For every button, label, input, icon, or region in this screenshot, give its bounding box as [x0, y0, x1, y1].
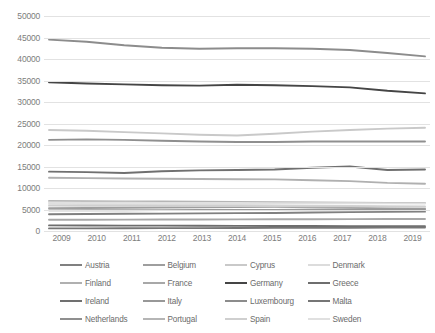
series-line	[49, 178, 425, 184]
legend-swatch-icon	[60, 264, 82, 266]
legend-label: Denmark	[333, 261, 365, 270]
legend-row: NetherlandsPortugalSpainSweden	[60, 310, 390, 328]
line-chart: 0500010000150002000025000300003500040000…	[0, 0, 435, 333]
x-axis-tick-label: 2015	[255, 233, 290, 249]
legend-swatch-icon	[308, 318, 330, 320]
legend-label: Finland	[85, 279, 111, 288]
legend-swatch-icon	[143, 318, 165, 320]
legend-label: Belgium	[168, 261, 197, 270]
y-axis-tick-label: 50000	[17, 11, 40, 21]
series-line	[49, 82, 425, 93]
legend-swatch-icon	[143, 300, 165, 302]
series-line	[49, 212, 425, 215]
series-line	[49, 203, 425, 204]
legend-swatch-icon	[143, 264, 165, 266]
y-axis-tick-label: 30000	[17, 97, 40, 107]
x-axis-tick-label: 2018	[360, 233, 395, 249]
x-axis-tick-label: 2011	[114, 233, 149, 249]
series-line	[49, 139, 425, 142]
x-axis-tick-label: 2009	[44, 233, 79, 249]
legend-item-spain[interactable]: Spain	[225, 315, 308, 324]
legend-item-france[interactable]: France	[143, 279, 226, 288]
x-axis-tick-label: 2016	[290, 233, 325, 249]
series-line	[49, 206, 425, 207]
legend-item-belgium[interactable]: Belgium	[143, 261, 226, 270]
gridline	[44, 145, 430, 146]
gridline	[44, 124, 430, 125]
legend-item-malta[interactable]: Malta	[308, 297, 391, 306]
gridline	[44, 81, 430, 82]
gridline	[44, 188, 430, 189]
legend-item-ireland[interactable]: Ireland	[60, 297, 143, 306]
y-axis-tick-label: 10000	[17, 183, 40, 193]
legend-swatch-icon	[143, 282, 165, 284]
legend-label: Greece	[333, 279, 359, 288]
legend-item-denmark[interactable]: Denmark	[308, 261, 391, 270]
x-axis-labels: 2009201020112012201320142015201620172018…	[44, 233, 430, 249]
y-axis-labels: 0500010000150002000025000300003500040000…	[0, 16, 40, 231]
gridline	[44, 167, 430, 168]
legend-label: Austria	[85, 261, 109, 270]
gridline	[44, 59, 430, 60]
x-axis-tick-label: 2010	[79, 233, 114, 249]
gridline	[44, 102, 430, 103]
legend-swatch-icon	[60, 300, 82, 302]
y-axis-tick-label: 40000	[17, 54, 40, 64]
chart-legend: AustriaBelgiumCyprusDenmarkFinlandFrance…	[60, 256, 390, 328]
series-line	[49, 40, 425, 57]
x-axis-tick-label: 2017	[325, 233, 360, 249]
legend-item-finland[interactable]: Finland	[60, 279, 143, 288]
x-axis-tick-label: 2019	[395, 233, 430, 249]
legend-swatch-icon	[225, 300, 247, 302]
y-axis-tick-label: 15000	[17, 162, 40, 172]
y-axis-tick-label: 45000	[17, 33, 40, 43]
legend-row: AustriaBelgiumCyprusDenmark	[60, 256, 390, 274]
legend-item-netherlands[interactable]: Netherlands	[60, 315, 143, 324]
series-line	[49, 228, 425, 229]
legend-swatch-icon	[225, 264, 247, 266]
legend-label: Malta	[333, 297, 352, 306]
series-line	[49, 219, 425, 220]
series-line	[49, 225, 425, 226]
gridline	[44, 231, 430, 232]
series-line	[49, 128, 425, 136]
legend-item-portugal[interactable]: Portugal	[143, 315, 226, 324]
legend-swatch-icon	[225, 318, 247, 320]
legend-item-cyprus[interactable]: Cyprus	[225, 261, 308, 270]
legend-swatch-icon	[60, 282, 82, 284]
y-axis-tick-label: 5000	[22, 205, 40, 215]
legend-item-luxembourg[interactable]: Luxembourg	[225, 297, 308, 306]
y-axis-tick-label: 20000	[17, 140, 40, 150]
gridline	[44, 38, 430, 39]
legend-item-italy[interactable]: Italy	[143, 297, 226, 306]
x-axis-tick-label: 2014	[219, 233, 254, 249]
legend-row: IrelandItalyLuxembourgMalta	[60, 292, 390, 310]
legend-label: Sweden	[333, 315, 362, 324]
x-axis-tick-label: 2013	[184, 233, 219, 249]
legend-label: Italy	[168, 297, 182, 306]
legend-item-germany[interactable]: Germany	[225, 279, 308, 288]
legend-item-austria[interactable]: Austria	[60, 261, 143, 270]
legend-swatch-icon	[308, 264, 330, 266]
legend-label: Ireland	[85, 297, 109, 306]
legend-label: France	[168, 279, 193, 288]
legend-label: Cyprus	[250, 261, 275, 270]
legend-label: Portugal	[168, 315, 197, 324]
legend-swatch-icon	[60, 318, 82, 320]
y-axis-tick-label: 25000	[17, 119, 40, 129]
x-axis-tick-label: 2012	[149, 233, 184, 249]
gridline	[44, 210, 430, 211]
legend-item-sweden[interactable]: Sweden	[308, 315, 391, 324]
legend-swatch-icon	[308, 282, 330, 284]
plot-area	[44, 16, 430, 231]
y-axis-tick-label: 35000	[17, 76, 40, 86]
legend-item-greece[interactable]: Greece	[308, 279, 391, 288]
gridline	[44, 16, 430, 17]
legend-swatch-icon	[308, 300, 330, 302]
legend-label: Luxembourg	[250, 297, 294, 306]
y-axis-tick-label: 0	[35, 226, 40, 236]
legend-swatch-icon	[225, 282, 247, 284]
legend-row: FinlandFranceGermanyGreece	[60, 274, 390, 292]
legend-label: Germany	[250, 279, 283, 288]
legend-label: Netherlands	[85, 315, 128, 324]
